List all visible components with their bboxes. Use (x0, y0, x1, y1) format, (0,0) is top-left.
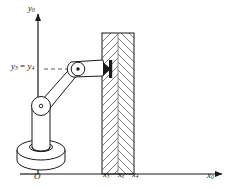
x-axis-label: x0 (207, 171, 214, 181)
wall-hatch-left (102, 33, 118, 174)
origin-label: O (34, 172, 41, 181)
shoulder-joint-pivot (39, 104, 43, 108)
robot-arm-diagram: y0 x0 O y3 = y4 x3 xe x4 (0, 0, 231, 194)
height-annotation-label: y3 = y4 (11, 62, 34, 72)
x-tick-label-x3: x3 (103, 170, 109, 180)
hatched-wall (102, 33, 134, 174)
x-tick-label-xe: xe (118, 170, 124, 180)
elbow-joint-pivot (76, 67, 79, 70)
x-tick-label-x4: x4 (132, 170, 138, 180)
end-effector-contact-pad (109, 60, 112, 78)
elbow-joint (71, 62, 85, 76)
wall-hatch-right (118, 33, 134, 174)
shoulder-joint (32, 97, 51, 116)
y-axis-label: y0 (28, 4, 35, 14)
diagram-canvas (0, 0, 231, 194)
